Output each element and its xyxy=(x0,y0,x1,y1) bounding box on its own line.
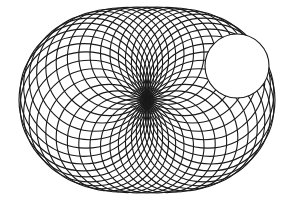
envelope-circle xyxy=(20,29,147,156)
envelope-circle xyxy=(20,44,147,171)
blank-disc xyxy=(205,34,269,98)
envelope-circle xyxy=(118,7,215,104)
circle-envelope-figure xyxy=(0,0,292,209)
envelope-circle xyxy=(79,7,176,104)
envelope-diagram xyxy=(0,0,292,209)
